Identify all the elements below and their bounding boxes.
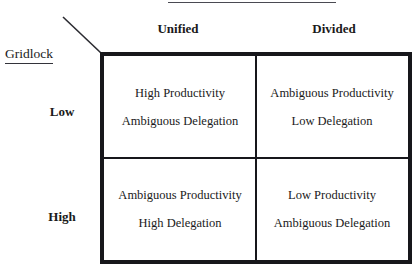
cell-line-delegation: Ambiguous Delegation (274, 216, 390, 231)
column-header-divided: Divided (256, 20, 412, 38)
matrix-cell-high-divided: Low Productivity Ambiguous Delegation (256, 158, 408, 260)
cell-line-productivity: High Productivity (135, 86, 225, 101)
top-axis-header-underline (168, 2, 336, 3)
matrix-divider-horizontal (104, 157, 408, 159)
cell-line-productivity: Ambiguous Productivity (118, 188, 241, 203)
cell-line-delegation: High Delegation (139, 216, 222, 231)
row-header-low: Low (30, 103, 94, 121)
cell-line-productivity: Ambiguous Productivity (270, 86, 393, 101)
column-header-unified: Unified (100, 20, 256, 38)
matrix-table: High Productivity Ambiguous Delegation A… (100, 52, 412, 264)
matrix-cell-low-divided: Ambiguous Productivity Low Delegation (256, 56, 408, 158)
matrix-cell-low-unified: High Productivity Ambiguous Delegation (104, 56, 256, 158)
cell-line-delegation: Ambiguous Delegation (122, 114, 238, 129)
cell-line-delegation: Low Delegation (292, 114, 373, 129)
row-axis-header-label: Gridlock (5, 46, 53, 64)
row-axis-header: Gridlock (5, 46, 53, 64)
row-header-high: High (30, 208, 94, 226)
corner-diagonal-line (60, 14, 104, 56)
matrix-cell-high-unified: Ambiguous Productivity High Delegation (104, 158, 256, 260)
cell-line-productivity: Low Productivity (288, 188, 376, 203)
